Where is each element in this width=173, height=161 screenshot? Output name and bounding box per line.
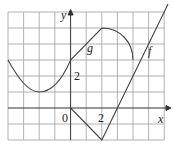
grid — [8, 12, 164, 140]
y-axis-label: y — [61, 9, 66, 21]
curve-f — [71, 4, 168, 140]
f-curve-label: f — [148, 45, 151, 57]
y-tick-label-2: 2 — [74, 70, 80, 82]
axes — [8, 10, 171, 141]
x-tick-label-2: 2 — [98, 112, 104, 124]
origin-label: 0 — [62, 112, 68, 124]
g-curve-label: g — [87, 42, 93, 54]
x-axis-arrow-icon — [166, 106, 171, 111]
x-axis-label: x — [158, 113, 163, 125]
graph-plot — [0, 0, 173, 161]
y-axis-arrow-icon — [68, 10, 73, 16]
